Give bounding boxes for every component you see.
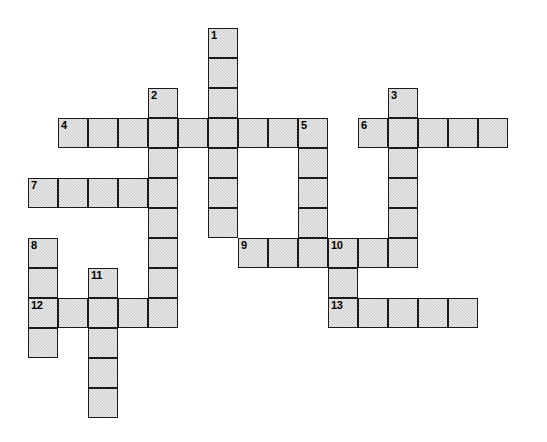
crossword-cell[interactable]: [148, 238, 178, 268]
crossword-cell[interactable]: [298, 178, 328, 208]
crossword-cell[interactable]: [208, 208, 238, 238]
crossword-cell[interactable]: [208, 178, 238, 208]
crossword-cell[interactable]: [28, 298, 58, 328]
crossword-cell[interactable]: [148, 88, 178, 118]
crossword-cell[interactable]: [148, 118, 178, 148]
crossword-cell[interactable]: [208, 58, 238, 88]
crossword-cell[interactable]: [88, 358, 118, 388]
crossword-cell[interactable]: [238, 118, 268, 148]
crossword-cell[interactable]: [148, 148, 178, 178]
crossword-cell[interactable]: [358, 238, 388, 268]
crossword-cell[interactable]: [268, 238, 298, 268]
crossword-cell[interactable]: [148, 268, 178, 298]
crossword-cell[interactable]: [178, 118, 208, 148]
crossword-cell[interactable]: [448, 118, 478, 148]
crossword-cell[interactable]: [448, 298, 478, 328]
crossword-cell[interactable]: [418, 118, 448, 148]
crossword-cell[interactable]: [148, 298, 178, 328]
crossword-cell[interactable]: [28, 268, 58, 298]
crossword-cell[interactable]: [208, 148, 238, 178]
crossword-grid[interactable]: 12345678910111213: [0, 0, 547, 442]
crossword-cell[interactable]: [88, 328, 118, 358]
crossword-cell[interactable]: [88, 388, 118, 418]
crossword-cell[interactable]: [28, 238, 58, 268]
crossword-cell[interactable]: [298, 238, 328, 268]
crossword-cell[interactable]: [388, 118, 418, 148]
crossword-cell[interactable]: [418, 298, 448, 328]
crossword-cell[interactable]: [58, 178, 88, 208]
crossword-cell[interactable]: [388, 208, 418, 238]
crossword-cell[interactable]: [388, 178, 418, 208]
crossword-cell[interactable]: [28, 328, 58, 358]
crossword-cell[interactable]: [328, 298, 358, 328]
crossword-cell[interactable]: [148, 208, 178, 238]
crossword-cell[interactable]: [298, 208, 328, 238]
crossword-cell[interactable]: [358, 118, 388, 148]
crossword-cell[interactable]: [478, 118, 508, 148]
crossword-cell[interactable]: [148, 178, 178, 208]
crossword-cell[interactable]: [388, 238, 418, 268]
crossword-cell[interactable]: [298, 118, 328, 148]
crossword-cell[interactable]: [88, 268, 118, 298]
crossword-cell[interactable]: [88, 298, 118, 328]
crossword-cell[interactable]: [388, 298, 418, 328]
crossword-cell[interactable]: [268, 118, 298, 148]
crossword-cell[interactable]: [388, 88, 418, 118]
crossword-cell[interactable]: [358, 298, 388, 328]
crossword-cell[interactable]: [208, 28, 238, 58]
crossword-cell[interactable]: [118, 118, 148, 148]
crossword-cell[interactable]: [388, 148, 418, 178]
crossword-cell[interactable]: [328, 268, 358, 298]
crossword-cell[interactable]: [88, 178, 118, 208]
crossword-cell[interactable]: [208, 88, 238, 118]
crossword-cell[interactable]: [208, 118, 238, 148]
crossword-cell[interactable]: [328, 238, 358, 268]
crossword-cell[interactable]: [58, 118, 88, 148]
crossword-puzzle: 12345678910111213: [0, 0, 547, 442]
crossword-cell[interactable]: [28, 178, 58, 208]
crossword-cell[interactable]: [238, 238, 268, 268]
crossword-cell[interactable]: [88, 118, 118, 148]
crossword-cell[interactable]: [298, 148, 328, 178]
crossword-cell[interactable]: [118, 178, 148, 208]
crossword-cell[interactable]: [118, 298, 148, 328]
crossword-cell[interactable]: [58, 298, 88, 328]
